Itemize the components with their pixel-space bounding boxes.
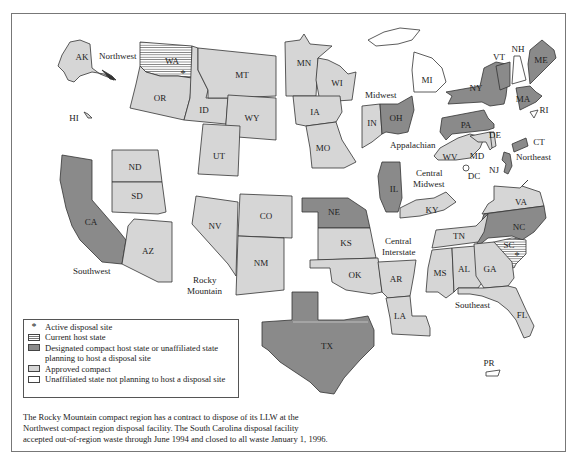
state-ok: [310, 258, 382, 294]
label-ar: AR: [390, 274, 403, 284]
label-wi: WI: [331, 78, 343, 88]
label-md: MD: [470, 151, 485, 161]
region-label-rocky-1: Rocky: [193, 275, 217, 285]
label-id: ID: [199, 105, 209, 115]
legend-label: Approved compact: [45, 364, 111, 374]
label-mo: MO: [316, 143, 331, 153]
asterisk-icon: *: [28, 322, 40, 332]
territory-pr: [486, 370, 500, 376]
state-tx: [262, 292, 374, 394]
label-ga: GA: [484, 264, 497, 274]
state-mi: [412, 52, 446, 92]
active-site-marker-sc: *: [514, 249, 520, 261]
label-il: IL: [390, 184, 399, 194]
label-or: OR: [154, 93, 167, 103]
label-pr: PR: [483, 358, 494, 368]
active-site-marker-wa: *: [180, 67, 186, 79]
label-az: AZ: [142, 246, 154, 256]
label-ky: KY: [426, 205, 439, 215]
label-mt: MT: [235, 70, 249, 80]
label-va: VA: [515, 197, 527, 207]
striped-swatch-icon: [28, 334, 40, 341]
dark-gray-swatch-icon: [28, 344, 40, 351]
legend-item-approved-compact: Approved compact: [28, 364, 238, 374]
label-pa: PA: [461, 120, 472, 130]
label-ok: OK: [349, 270, 362, 280]
label-ks: KS: [340, 238, 352, 248]
region-label-southwest: Southwest: [73, 266, 111, 276]
legend-label: Active disposal site: [45, 322, 112, 332]
legend-label: Current host state: [45, 332, 106, 342]
label-sc: SC: [503, 240, 514, 250]
state-hi: [84, 112, 92, 118]
state-ut: [198, 124, 240, 176]
label-fl: FL: [517, 310, 528, 320]
label-dc: DC: [468, 171, 481, 181]
state-nj: [502, 152, 512, 174]
region-label-midwest: Midwest: [365, 90, 397, 100]
region-label-southeast: Southeast: [455, 300, 490, 310]
state-ri: [530, 110, 538, 118]
label-nd: ND: [129, 162, 142, 172]
label-nj: NJ: [489, 165, 499, 175]
state-la: [386, 296, 430, 336]
legend-label-continued: planning to host a disposal site: [28, 353, 238, 363]
region-label-central-interstate-2: Interstate: [382, 247, 415, 257]
label-hi: HI: [69, 113, 79, 123]
legend-item-active-site: * Active disposal site: [28, 322, 238, 332]
label-ia: IA: [310, 107, 320, 117]
label-ma: MA: [516, 94, 531, 104]
label-ne: NE: [328, 207, 340, 217]
region-label-northeast: Northeast: [516, 152, 551, 162]
white-swatch-icon: [28, 376, 40, 383]
label-mi: MI: [422, 75, 433, 85]
region-label-northwest: Northwest: [99, 51, 137, 61]
footnote-line: Northwest compact region disposal facili…: [23, 423, 523, 434]
label-ct: CT: [533, 137, 545, 147]
map-footnote: The Rocky Mountain compact region has a …: [23, 412, 523, 445]
region-label-central-midwest-2: Midwest: [413, 179, 445, 189]
state-mi-up: [368, 28, 420, 46]
label-tx: TX: [321, 341, 333, 351]
state-nh: [512, 56, 526, 84]
label-me: ME: [534, 55, 548, 65]
region-label-central-interstate-1: Central: [385, 236, 412, 246]
footnote-line: accepted out-of-region waste through Jun…: [23, 434, 523, 445]
legend-label: Designated compact host state or unaffil…: [45, 343, 218, 353]
label-nh: NH: [512, 44, 525, 54]
label-wv: WV: [443, 152, 458, 162]
label-ak: AK: [76, 52, 89, 62]
label-wa: WA: [165, 56, 179, 66]
label-vt: VT: [493, 52, 505, 62]
footnote-line: The Rocky Mountain compact region has a …: [23, 412, 523, 423]
light-gray-swatch-icon: [28, 365, 40, 372]
label-al: AL: [458, 264, 470, 274]
label-nv: NV: [209, 221, 222, 231]
label-de: DE: [489, 130, 501, 140]
state-nv: [192, 196, 238, 276]
state-ct: [512, 138, 528, 152]
label-oh: OH: [390, 113, 403, 123]
label-ri: RI: [540, 105, 549, 115]
state-mo: [306, 122, 356, 168]
label-nc: NC: [513, 222, 526, 232]
label-wy: WY: [245, 113, 260, 123]
label-nm: NM: [254, 258, 269, 268]
region-label-rocky-2: Mountain: [187, 286, 222, 296]
label-ny: NY: [470, 83, 483, 93]
label-co: CO: [260, 211, 273, 221]
label-tn: TN: [453, 231, 465, 241]
label-in: IN: [367, 118, 377, 128]
region-label-central-midwest-1: Central: [416, 168, 443, 178]
region-label-appalachian: Appalachian: [390, 140, 436, 150]
label-ms: MS: [433, 268, 446, 278]
label-sd: SD: [131, 191, 143, 201]
map-legend: * Active disposal site Current host stat…: [23, 319, 239, 398]
legend-label: Unaffiliated state not planning to host …: [45, 374, 225, 384]
legend-item-current-host: Current host state: [28, 332, 238, 342]
legend-item-designated-host: Designated compact host state or unaffil…: [28, 343, 238, 353]
label-ca: CA: [85, 217, 98, 227]
label-ut: UT: [213, 151, 225, 161]
label-mn: MN: [297, 58, 312, 68]
label-la: LA: [394, 311, 406, 321]
